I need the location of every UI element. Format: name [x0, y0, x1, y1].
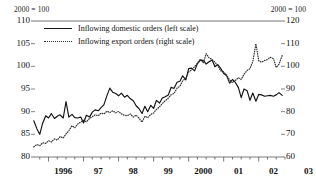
- x-axis-tick: 98: [129, 166, 138, 176]
- legend-line-solid-icon: [44, 25, 72, 33]
- chart-container: 2000 = 100 2000 = 100 80859095100105110 …: [0, 0, 316, 183]
- legend-label-export: Inflowing export orders (right scale): [78, 37, 194, 46]
- legend-line-dotted-icon: [44, 38, 72, 46]
- legend-item-domestic: Inflowing domestic orders (left scale): [44, 22, 244, 35]
- x-axis-tick: 02: [269, 166, 278, 176]
- x-axis-tick: 1996: [54, 166, 72, 176]
- legend-label-domestic: Inflowing domestic orders (left scale): [78, 24, 198, 33]
- x-axis-tick: 97: [94, 166, 103, 176]
- x-axis-tick: 99: [164, 166, 173, 176]
- chart-legend: Inflowing domestic orders (left scale) I…: [44, 22, 244, 48]
- legend-item-export: Inflowing export orders (right scale): [44, 35, 244, 48]
- x-axis-tick: 01: [234, 166, 243, 176]
- x-axis-tick: 03: [304, 166, 313, 176]
- x-axis-tick: 2000: [194, 166, 212, 176]
